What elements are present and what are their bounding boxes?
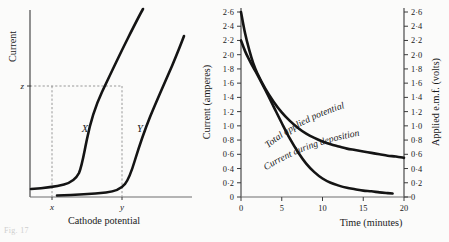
y2tick-label: 1·2 — [411, 108, 422, 117]
ytick-label: 1·8 — [223, 65, 234, 74]
y2tick-label: 0·2 — [411, 179, 422, 188]
right-y2tick-marks — [404, 12, 408, 197]
chart-panel-deposition-vs-time: 00·20·40·60·81·01·21·41·61·82·02·22·42·6… — [196, 0, 449, 242]
right-y-axis-title: Current (amperes) — [201, 65, 213, 139]
curve-label-x: X — [81, 123, 89, 134]
y2tick-label: 2·4 — [411, 22, 423, 31]
right-x-axis-title: Time (minutes) — [340, 217, 403, 229]
left-x-axis-title: Cathode potential — [68, 215, 140, 226]
right-y2-axis-title: Applied e.m.f. (volts) — [430, 58, 442, 146]
ytick-label: 1·6 — [223, 79, 234, 88]
y2tick-label: 0·4 — [411, 165, 423, 174]
ytick-label: 0·8 — [223, 136, 234, 145]
ytick-label: 2·4 — [223, 22, 235, 31]
y2tick-label: 1·4 — [411, 93, 423, 102]
y2tick-label: 0·8 — [411, 136, 422, 145]
right-chart-svg: 00·20·40·60·81·01·21·41·61·82·02·22·42·6… — [196, 0, 449, 242]
left-chart-svg: Current Cathode potential z x y X Y — [0, 0, 200, 242]
y2tick-label: 1·6 — [411, 79, 422, 88]
right-ytick-labels: 00·20·40·60·81·01·21·41·61·82·02·22·42·6 — [223, 8, 235, 202]
xtick-label: 0 — [239, 204, 243, 213]
curve-y-path — [57, 36, 184, 196]
right-xtick-labels: 05101520 — [239, 204, 408, 213]
ytick-label: 2·6 — [223, 8, 234, 17]
right-y2tick-labels: 00·20·40·60·81·01·21·41·61·82·02·22·42·6 — [411, 8, 423, 202]
left-xtick-label-y: y — [119, 202, 124, 212]
chart-panel-current-vs-cathode-potential: Current Cathode potential z x y X Y — [0, 0, 200, 242]
y2tick-label: 1·0 — [411, 122, 422, 131]
ytick-label: 0 — [230, 193, 234, 202]
ytick-label: 1·2 — [223, 108, 234, 117]
ytick-label: 0·4 — [223, 165, 235, 174]
y2tick-label: 0·6 — [411, 150, 422, 159]
xtick-label: 20 — [400, 204, 408, 213]
xtick-label: 10 — [318, 204, 326, 213]
left-xtick-label-x: x — [49, 202, 54, 212]
xtick-label: 5 — [280, 204, 284, 213]
ytick-label: 2·2 — [223, 36, 234, 45]
figure-root: Current Cathode potential z x y X Y 00·2… — [0, 0, 449, 242]
ytick-label: 1·0 — [223, 122, 234, 131]
figure-caption: Fig. 17 — [4, 226, 29, 235]
ytick-label: 2·0 — [223, 51, 234, 60]
left-ytick-label-z: z — [19, 81, 24, 91]
ytick-label: 0·6 — [223, 150, 234, 159]
curve-x-path — [31, 9, 143, 189]
y2tick-label: 2·6 — [411, 8, 422, 17]
ytick-label: 1·4 — [223, 93, 235, 102]
ytick-label: 0·2 — [223, 179, 234, 188]
y2tick-label: 1·8 — [411, 65, 422, 74]
y2tick-label: 2·0 — [411, 51, 422, 60]
right-xtick-marks — [241, 197, 404, 201]
y2tick-label: 0 — [411, 193, 415, 202]
xtick-label: 15 — [359, 204, 367, 213]
y2tick-label: 2·2 — [411, 36, 422, 45]
left-y-axis-title: Current — [7, 31, 18, 62]
